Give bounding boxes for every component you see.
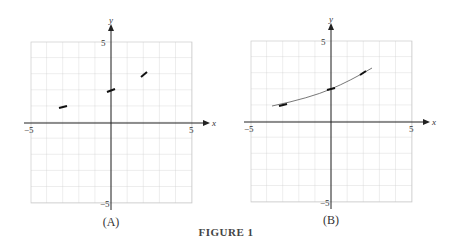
x-axis-arrow-icon	[203, 120, 210, 126]
svg-text:−5: −5	[100, 199, 110, 209]
figure-canvas: yx 5−5−55 yx 5−5−55	[0, 0, 453, 249]
panel-a-graph	[24, 24, 210, 210]
svg-text:5: 5	[101, 38, 106, 48]
svg-text:x: x	[431, 117, 436, 127]
svg-text:5: 5	[409, 124, 414, 134]
svg-text:−5: −5	[320, 198, 330, 208]
svg-text:5: 5	[321, 37, 326, 47]
svg-text:x: x	[211, 118, 216, 128]
panel-b-label: (B)	[323, 213, 339, 228]
figure-caption: FIGURE 1	[198, 226, 253, 238]
svg-text:5: 5	[189, 125, 194, 135]
x-axis-arrow-icon	[423, 119, 430, 125]
y-axis-arrow-icon	[328, 23, 334, 30]
panel-b-graph	[244, 23, 430, 209]
svg-text:y: y	[328, 14, 333, 24]
svg-text:y: y	[108, 15, 113, 25]
svg-text:−5: −5	[244, 124, 254, 134]
svg-text:−5: −5	[24, 125, 34, 135]
panel-a-label: (A)	[103, 215, 120, 230]
y-axis-arrow-icon	[108, 24, 114, 31]
